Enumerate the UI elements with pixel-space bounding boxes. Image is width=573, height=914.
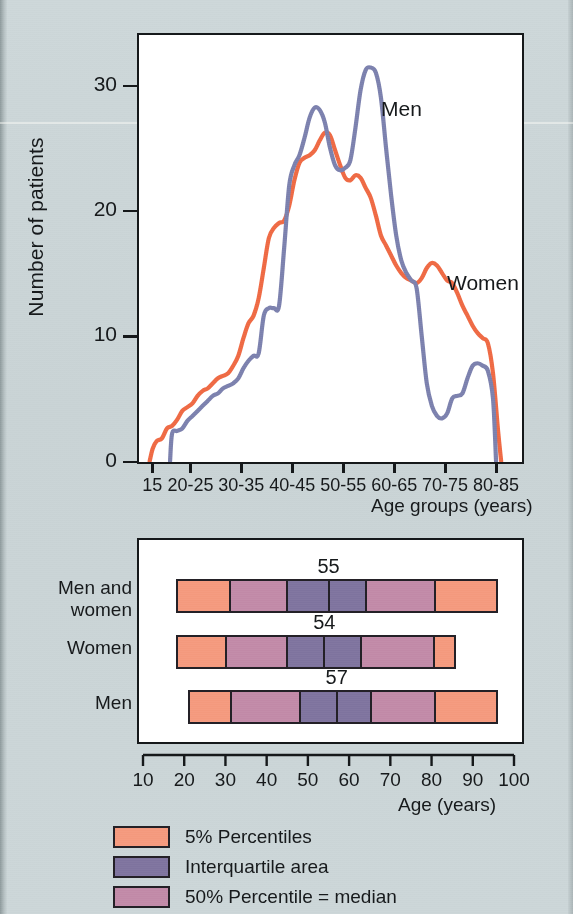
x-tick-label-15: 15	[142, 475, 162, 496]
x-tick-label-20-25: 20-25	[167, 475, 213, 496]
legend-item-percentile-5: 5% Percentiles	[113, 826, 312, 848]
x-tick-mark	[444, 462, 447, 473]
x-tick-mark	[291, 462, 294, 473]
legend-label-interquartile: Interquartile area	[185, 856, 329, 878]
legend-swatch-percentile-50	[113, 886, 170, 908]
series-line-men	[170, 67, 496, 461]
x-tick-label-30-35: 30-35	[218, 475, 264, 496]
percentile-x-axis-title: Age (years)	[398, 794, 496, 816]
series-annotation-men: Men	[381, 97, 422, 121]
line-chart-panel: Number of patients 0102030 1520-2530-354…	[0, 0, 573, 525]
legend-item-percentile-50: 50% Percentile = median	[113, 886, 397, 908]
legend-item-interquartile: Interquartile area	[113, 856, 329, 878]
legend-label-percentile-5: 5% Percentiles	[185, 826, 312, 848]
y-tick-mark	[123, 461, 137, 464]
y-tick-mark	[123, 210, 137, 213]
x-tick-mark	[240, 462, 243, 473]
y-tick-label-10: 10	[71, 322, 117, 346]
distribution-curves	[139, 35, 522, 462]
x-tick-mark	[342, 462, 345, 473]
y-tick-mark	[123, 85, 137, 88]
y-tick-label-0: 0	[71, 448, 117, 472]
x-tick-mark	[189, 462, 192, 473]
x-tick-label-60-65: 60-65	[371, 475, 417, 496]
x-tick-label-70-75: 70-75	[422, 475, 468, 496]
x-tick-label-50-55: 50-55	[320, 475, 366, 496]
y-tick-label-30: 30	[71, 72, 117, 96]
legend: 5% PercentilesInterquartile area50% Perc…	[0, 826, 573, 914]
line-chart-plot-area	[137, 33, 524, 464]
x-tick-label-40-45: 40-45	[269, 475, 315, 496]
legend-swatch-percentile-5	[113, 826, 170, 848]
legend-swatch-interquartile	[113, 856, 170, 878]
x-tick-label-80-85: 80-85	[473, 475, 519, 496]
y-tick-label-20: 20	[71, 197, 117, 221]
x-tick-mark	[495, 462, 498, 473]
y-tick-mark	[123, 335, 137, 338]
x-axis-title: Age groups (years)	[371, 495, 533, 517]
legend-label-percentile-50: 50% Percentile = median	[185, 886, 397, 908]
x-tick-mark	[151, 462, 154, 473]
series-annotation-women: Women	[447, 271, 519, 295]
y-axis-title: Number of patients	[24, 37, 48, 417]
x-tick-mark	[393, 462, 396, 473]
figure-root: Number of patients 0102030 1520-2530-354…	[0, 0, 573, 914]
